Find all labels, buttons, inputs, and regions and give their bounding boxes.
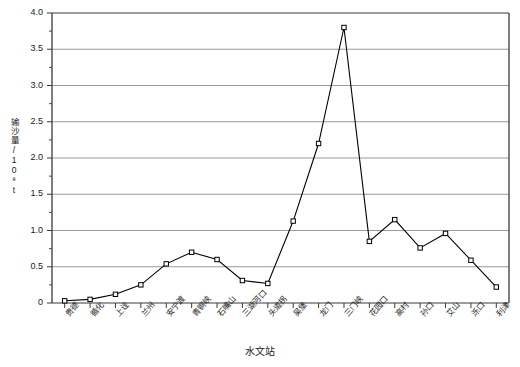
y-tick-label: 2.0 xyxy=(15,152,43,162)
y-tick-label: 0.5 xyxy=(15,261,43,271)
y-tick-label: 0 xyxy=(15,297,43,307)
y-tick-label: 1.0 xyxy=(15,225,43,235)
data-point-marker xyxy=(418,246,422,250)
data-point-marker xyxy=(189,250,193,254)
data-point-marker xyxy=(342,25,346,29)
data-point-marker xyxy=(266,281,270,285)
data-point-marker xyxy=(469,258,473,262)
data-point-marker xyxy=(113,292,117,296)
y-tick-label: 4.0 xyxy=(15,7,43,17)
data-point-marker xyxy=(215,257,219,261)
data-point-marker xyxy=(291,219,295,223)
data-point-marker xyxy=(164,262,168,266)
data-point-marker xyxy=(139,283,143,287)
y-tick-label: 2.5 xyxy=(15,116,43,126)
data-point-marker xyxy=(316,141,320,145)
data-series-line xyxy=(65,28,497,301)
data-point-marker xyxy=(494,285,498,289)
data-point-marker xyxy=(88,297,92,301)
data-point-marker xyxy=(62,299,66,303)
y-tick-label: 3.5 xyxy=(15,43,43,53)
data-point-marker xyxy=(443,231,447,235)
y-tick-label: 3.0 xyxy=(15,80,43,90)
y-tick-label: 1.5 xyxy=(15,188,43,198)
data-point-marker xyxy=(240,278,244,282)
chart-container: 输沙量/10⁸t 水文站 00.51.01.52.02.53.03.54.0 贵… xyxy=(0,0,520,367)
plot-area xyxy=(0,0,520,367)
data-point-marker xyxy=(367,239,371,243)
data-point-marker xyxy=(393,217,397,221)
